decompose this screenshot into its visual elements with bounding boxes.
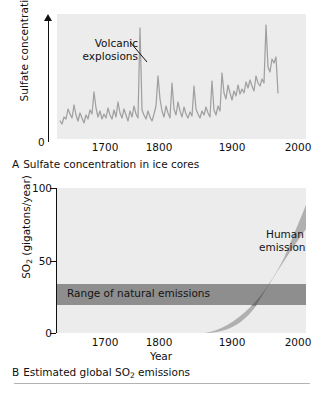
y-axis-label-b: SO2 (gigatons/year)	[20, 152, 32, 302]
human-emissions-wedge-svg	[57, 188, 306, 333]
panel-b-caption: BEstimated global SO2 emissions	[12, 366, 190, 378]
band-label-natural-emissions: Range of natural emissions	[67, 287, 210, 299]
annotation-line-2: explosions	[60, 50, 138, 63]
panel-b-letter: B	[12, 366, 19, 378]
y-axis-label-b-subscript: 2	[25, 259, 34, 264]
human-emissions-label-line-1: Human	[247, 228, 306, 241]
figure-bottom-rule	[14, 383, 310, 384]
panel-b-caption-subscript: 2	[130, 371, 135, 380]
panel-a-caption-text: Sulfate concentration in ice cores	[23, 158, 199, 170]
x-tick-b-1700: 1700	[92, 336, 119, 348]
y-axis-line-b	[56, 188, 57, 333]
panel-a-sulfate-ice-cores: Sulfate concentration 0 1700 1800 1900 2…	[0, 0, 322, 178]
y-axis-zero-a: 0	[38, 136, 45, 148]
x-tick-b-1900: 1900	[219, 336, 246, 348]
y-axis-label-b-prefix: SO	[20, 264, 32, 279]
x-tick-b-2000: 2000	[285, 336, 312, 348]
x-tick-a-1800: 1800	[146, 141, 173, 153]
y-tick-mark-b-50	[50, 261, 56, 262]
x-tick-b-1800: 1800	[146, 336, 173, 348]
panel-a-caption: ASulfate concentration in ice cores	[12, 158, 199, 170]
panel-b-caption-prefix: Estimated global SO	[23, 366, 130, 378]
volcanic-explosions-annotation: Volcanic explosions	[60, 37, 138, 62]
annotation-leader-line	[130, 40, 154, 66]
y-tick-mark-b-0	[50, 333, 56, 334]
sulfate-timeseries-svg	[57, 14, 306, 139]
x-axis-label-b: Year	[0, 350, 322, 362]
y-tick-mark-b-100	[50, 188, 56, 189]
y-axis-label-a: Sulfate concentration	[18, 0, 30, 104]
x-tick-a-2000: 2000	[285, 141, 312, 153]
panel-a-plot-area	[57, 14, 306, 139]
human-emissions-label: Human emissions	[247, 228, 306, 253]
panel-b-estimated-so2-emissions: Range of natural emissions Human emissio…	[0, 178, 322, 396]
figure-sulfate-and-so2: Sulfate concentration 0 1700 1800 1900 2…	[0, 0, 322, 396]
y-axis-line-a	[48, 20, 49, 142]
human-emissions-wedge-over-band	[205, 205, 306, 333]
y-axis-label-b-suffix: (gigatons/year)	[20, 175, 32, 259]
panel-b-caption-suffix: emissions	[135, 366, 190, 378]
panel-a-letter: A	[12, 158, 19, 170]
annotation-line-1: Volcanic	[60, 37, 138, 50]
human-emissions-label-line-2: emissions	[247, 241, 306, 254]
x-tick-a-1900: 1900	[219, 141, 246, 153]
x-tick-a-1700: 1700	[92, 141, 119, 153]
panel-b-plot-area: Range of natural emissions Human emissio…	[57, 188, 306, 333]
y-tick-b-0: 0	[18, 327, 52, 339]
human-emissions-wedge	[205, 205, 306, 333]
